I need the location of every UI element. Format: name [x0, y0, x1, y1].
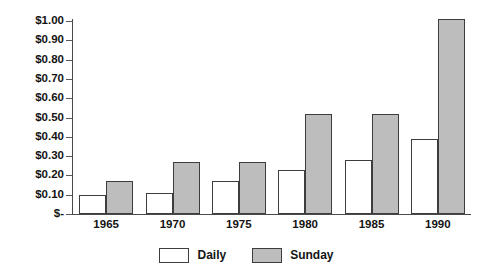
- y-axis-tick-label: $0.40: [8, 131, 64, 143]
- gray-swatch: [252, 248, 282, 263]
- y-axis-tick-label: $0.50: [8, 112, 64, 124]
- bar-chart: $-$0.10$0.20$0.30$0.40$0.50$0.60$0.70$0.…: [0, 0, 493, 277]
- white-swatch: [159, 248, 189, 263]
- legend-item-label: Daily: [197, 249, 226, 261]
- x-axis-tick-label: 1980: [292, 217, 318, 231]
- x-axis-tick-label: 1990: [425, 217, 451, 231]
- x-axis-tick-label: 1985: [359, 217, 385, 231]
- legend-item-daily[interactable]: Daily: [159, 248, 226, 263]
- bar-group-1970: [146, 0, 200, 214]
- plot-area: $-$0.10$0.20$0.30$0.40$0.50$0.60$0.70$0.…: [0, 0, 493, 232]
- bar-sunday-1975: [239, 162, 266, 214]
- bar-sunday-1970: [173, 162, 200, 214]
- y-axis-tick-label: $0.20: [8, 170, 64, 182]
- bar-group-1985: [345, 0, 399, 214]
- x-axis-tick-label: 1965: [93, 217, 119, 231]
- bar-group-1980: [278, 0, 332, 214]
- x-axis-line: [72, 214, 471, 215]
- y-axis-tick-labels: $-$0.10$0.20$0.30$0.40$0.50$0.60$0.70$0.…: [8, 0, 64, 232]
- y-axis-tick-label: $-: [8, 208, 64, 220]
- bar-sunday-1990: [438, 19, 465, 214]
- bar-group-1965: [79, 0, 133, 214]
- y-axis-tick-label: $0.80: [8, 54, 64, 66]
- x-axis-tick-labels: 196519701975198019851990: [73, 217, 471, 235]
- x-axis-tick-label: 1970: [160, 217, 186, 231]
- x-axis-tick-label: 1975: [226, 217, 252, 231]
- legend-item-sunday[interactable]: Sunday: [252, 248, 333, 263]
- bar-sunday-1985: [372, 114, 399, 214]
- bar-daily-1980: [278, 170, 305, 214]
- bar-daily-1965: [79, 195, 106, 214]
- y-axis-tick-label: $0.60: [8, 92, 64, 104]
- legend-item-label: Sunday: [290, 249, 333, 261]
- y-axis-tick-label: $0.10: [8, 189, 64, 201]
- bar-daily-1970: [146, 193, 173, 214]
- bar-daily-1985: [345, 160, 372, 214]
- bar-daily-1975: [212, 181, 239, 214]
- bar-group-1975: [212, 0, 266, 214]
- bar-sunday-1965: [106, 181, 133, 214]
- y-axis-tick-label: $0.30: [8, 150, 64, 162]
- bars-area: [73, 0, 471, 214]
- bar-daily-1990: [411, 139, 438, 214]
- y-axis-tick-label: $0.90: [8, 35, 64, 47]
- chart-legend: DailySunday: [0, 243, 493, 267]
- y-axis-tick-label: $1.00: [8, 15, 64, 27]
- bar-group-1990: [411, 0, 465, 214]
- bar-sunday-1980: [305, 114, 332, 214]
- y-axis-tick-label: $0.70: [8, 73, 64, 85]
